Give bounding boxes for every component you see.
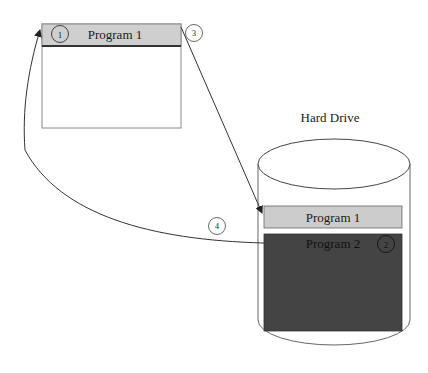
diagram-canvas: 1 Program 1 Hard Drive Program 1 Program…: [0, 0, 428, 373]
step-1-badge: 1: [58, 30, 63, 40]
hard-drive-slot-program-1: Program 1: [264, 206, 402, 228]
hard-drive-slot-program-2: Program 2 2: [264, 234, 402, 331]
save-arrow: 3: [181, 25, 262, 214]
step-2-badge: 2: [384, 240, 389, 250]
slot-program-1-label: Program 1: [306, 210, 361, 225]
step-4-badge: 4: [215, 222, 219, 231]
step-3-badge: 3: [192, 29, 196, 38]
program-window: 1 Program 1: [42, 24, 181, 128]
save-arrow-line: [181, 27, 262, 213]
cylinder-top: [258, 139, 410, 189]
hard-drive-label: Hard Drive: [301, 110, 360, 125]
program-window-title: Program 1: [88, 27, 143, 42]
slot-program-2-label: Program 2: [306, 236, 361, 251]
